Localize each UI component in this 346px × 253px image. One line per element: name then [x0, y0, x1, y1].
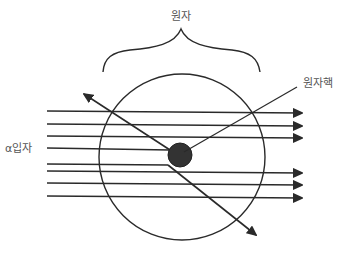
alpha-path-straight	[47, 124, 302, 126]
alpha-path-backscattered	[84, 94, 170, 150]
alpha-path-straight	[47, 183, 302, 185]
atom-label: 원자	[171, 10, 191, 23]
alpha-path-straight	[47, 111, 302, 113]
alpha-path-incoming-deflect	[47, 164, 168, 165]
alpha-path-straight	[47, 136, 302, 138]
alpha-path-straight	[47, 196, 302, 198]
alpha-path-deflected	[168, 165, 256, 235]
rutherford-scattering-diagram: 원자 원자핵 α입자	[0, 0, 346, 253]
alpha-path-incoming-backscatter	[47, 148, 170, 150]
nucleus-leader-line	[184, 87, 297, 152]
nucleus	[168, 143, 192, 167]
atom-brace	[103, 29, 260, 72]
alpha-particle-label: α입자	[5, 142, 32, 155]
nucleus-label: 원자핵	[303, 77, 333, 90]
